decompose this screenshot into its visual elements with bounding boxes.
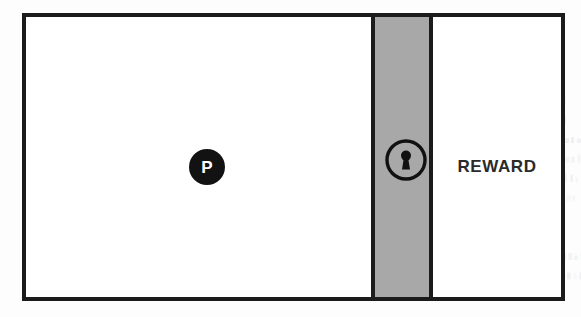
right-room: REWARD	[433, 17, 561, 297]
keyhole-icon	[384, 138, 428, 182]
reward-label: REWARD	[433, 149, 561, 185]
room-inner-area: P REWARD	[26, 17, 561, 297]
locked-door[interactable]	[371, 17, 433, 297]
agent-token-icon[interactable]: P	[189, 149, 225, 185]
environment-boundary: P REWARD	[22, 13, 565, 301]
agent-label: P	[201, 159, 213, 176]
left-room: P	[26, 17, 371, 297]
